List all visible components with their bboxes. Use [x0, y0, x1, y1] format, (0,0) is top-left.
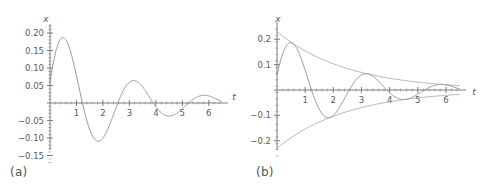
figure-container: x t 123456 0.200.150.100.05−0.05−0.10−0.…: [0, 0, 493, 185]
y-tick-label: −0.1: [250, 110, 271, 120]
y-tick-label: 0.1: [257, 60, 271, 70]
panel-caption-b: (b): [256, 165, 274, 179]
y-tick-labels: 0.20.1−0.1−0.2: [250, 34, 271, 146]
axes: [47, 24, 228, 150]
y-tick-label: −0.2: [250, 136, 271, 146]
panel-b: x t 123456 0.20.1−0.1−0.2 (b): [246, 0, 493, 185]
curve-damped-oscillation: [277, 43, 460, 118]
x-tick-label: 5: [415, 95, 420, 105]
y-tick-label: 0.05: [25, 81, 44, 91]
x-tick-label: 1: [74, 108, 79, 118]
x-tick-label: 6: [206, 108, 211, 118]
data-curves: [50, 38, 222, 142]
y-tick-label: −0.15: [18, 151, 44, 161]
x-tick-label: 2: [100, 108, 105, 118]
y-axis-label: x: [42, 14, 49, 24]
x-axis-label: t: [472, 87, 476, 97]
x-tick-label: 3: [127, 108, 132, 118]
x-tick-label: 4: [387, 95, 392, 105]
panel-b-plot: x t 123456 0.20.1−0.1−0.2: [246, 0, 493, 185]
x-axis-label: t: [232, 92, 236, 102]
curve-upper-envelope: [277, 32, 460, 86]
x-tick-label: 6: [443, 95, 448, 105]
y-axis-label: x: [274, 14, 281, 24]
panel-a: x t 123456 0.200.150.100.05−0.05−0.10−0.…: [0, 0, 247, 185]
y-tick-label: 0.20: [25, 28, 44, 38]
curve-damped-oscillation: [50, 38, 222, 142]
y-tick-label: 0.15: [25, 46, 44, 56]
y-tick-label: −0.10: [18, 133, 44, 143]
x-tick-label: 2: [331, 95, 336, 105]
y-tick-labels: 0.200.150.100.05−0.05−0.10−0.15: [18, 28, 44, 161]
panel-caption-a: (a): [10, 165, 27, 179]
x-tick-label: 1: [302, 95, 307, 105]
x-tick-labels: 123456: [74, 108, 212, 118]
y-tick-label: 0.10: [25, 63, 44, 73]
y-tick-marks: [274, 29, 280, 156]
panel-a-plot: x t 123456 0.200.150.100.05−0.05−0.10−0.…: [0, 0, 247, 185]
y-tick-label: −0.05: [18, 116, 44, 126]
x-tick-label: 3: [359, 95, 364, 105]
x-tick-label: 5: [180, 108, 185, 118]
y-tick-label: 0.2: [257, 34, 271, 44]
x-tick-labels: 123456: [302, 95, 448, 105]
